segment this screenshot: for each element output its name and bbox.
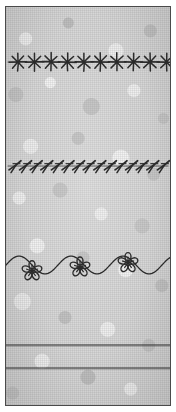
fabric-texture [6,7,170,405]
embroidery-sampler-plate: Star / Asterisk Stitch Band Feather / He… [0,0,176,412]
fabric-swatch-frame: Star / Asterisk Stitch Band Feather / He… [5,6,171,406]
